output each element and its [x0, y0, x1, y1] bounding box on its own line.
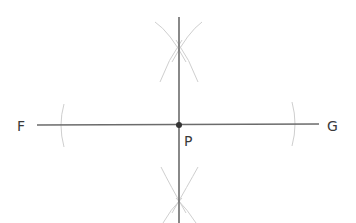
arc-top-left	[155, 22, 186, 62]
label-p: P	[184, 133, 192, 149]
label-f: F	[17, 118, 25, 134]
construction-diagram: F G P	[0, 0, 356, 223]
arc-bottom-right	[172, 167, 198, 213]
label-g: G	[327, 118, 338, 134]
arc-top-right	[172, 22, 202, 62]
point-p	[176, 122, 182, 128]
arc-bottom-left	[161, 167, 186, 213]
